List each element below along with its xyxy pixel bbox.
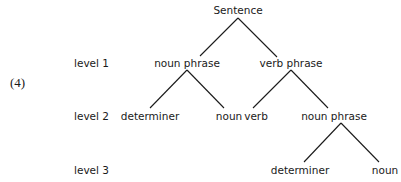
- level-3-label: level 3: [74, 165, 109, 176]
- node-verb-phrase-l1: verb phrase: [260, 58, 323, 69]
- edge-sentence-nounphrase: [200, 18, 238, 56]
- node-determiner-l2: determiner: [121, 111, 179, 122]
- edge-vp-verb: [253, 70, 291, 108]
- level-1-label: level 1: [74, 58, 109, 69]
- node-noun-l3: noun: [372, 165, 398, 176]
- edge-np-noun: [187, 70, 224, 108]
- syntax-tree-diagram: (4) level 1 level 2 level 3 Sentence nou…: [0, 0, 401, 182]
- edge-np-determiner: [150, 70, 187, 108]
- figure-number: (4): [10, 76, 25, 89]
- node-noun-phrase-l2: noun phrase: [301, 111, 367, 122]
- level-2-label: level 2: [74, 111, 109, 122]
- node-determiner-l3: determiner: [271, 165, 329, 176]
- edge-vp-nounphrase: [291, 70, 328, 108]
- edge-np2-noun: [341, 123, 379, 162]
- edge-sentence-verbphrase: [238, 18, 277, 57]
- tree-edges: [0, 0, 401, 182]
- edge-np2-determiner: [304, 123, 341, 162]
- node-noun-l2: noun: [216, 111, 242, 122]
- node-noun-phrase-l1: noun phrase: [154, 58, 220, 69]
- node-sentence: Sentence: [213, 5, 262, 16]
- node-verb-l2: verb: [244, 111, 268, 122]
